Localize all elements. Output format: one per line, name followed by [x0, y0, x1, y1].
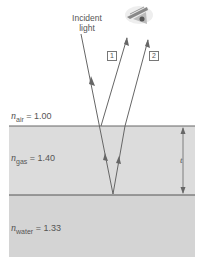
- n-air-subscript: air: [16, 116, 24, 123]
- n-gas-value: = 1.40: [30, 153, 55, 163]
- n-air-value: = 1.00: [26, 111, 51, 121]
- eye-icon: [125, 6, 153, 24]
- n-water-label: nwater = 1.33: [11, 222, 61, 235]
- n-gas-label: ngas = 1.40: [11, 152, 55, 165]
- n-water-value: = 1.33: [36, 223, 61, 233]
- n-water-subscript: water: [16, 228, 33, 235]
- ray-2: [125, 40, 148, 126]
- n-gas-subscript: gas: [16, 158, 27, 165]
- thickness-label: t: [180, 155, 183, 165]
- incident-light-label: Incident light: [62, 13, 112, 33]
- incident-label-line1: Incident: [62, 13, 112, 23]
- ray-2-label: 2: [149, 51, 159, 61]
- n-air-label: nair = 1.00: [11, 110, 52, 123]
- incident-label-line2: light: [62, 23, 112, 33]
- ray-1-label: 1: [107, 51, 117, 61]
